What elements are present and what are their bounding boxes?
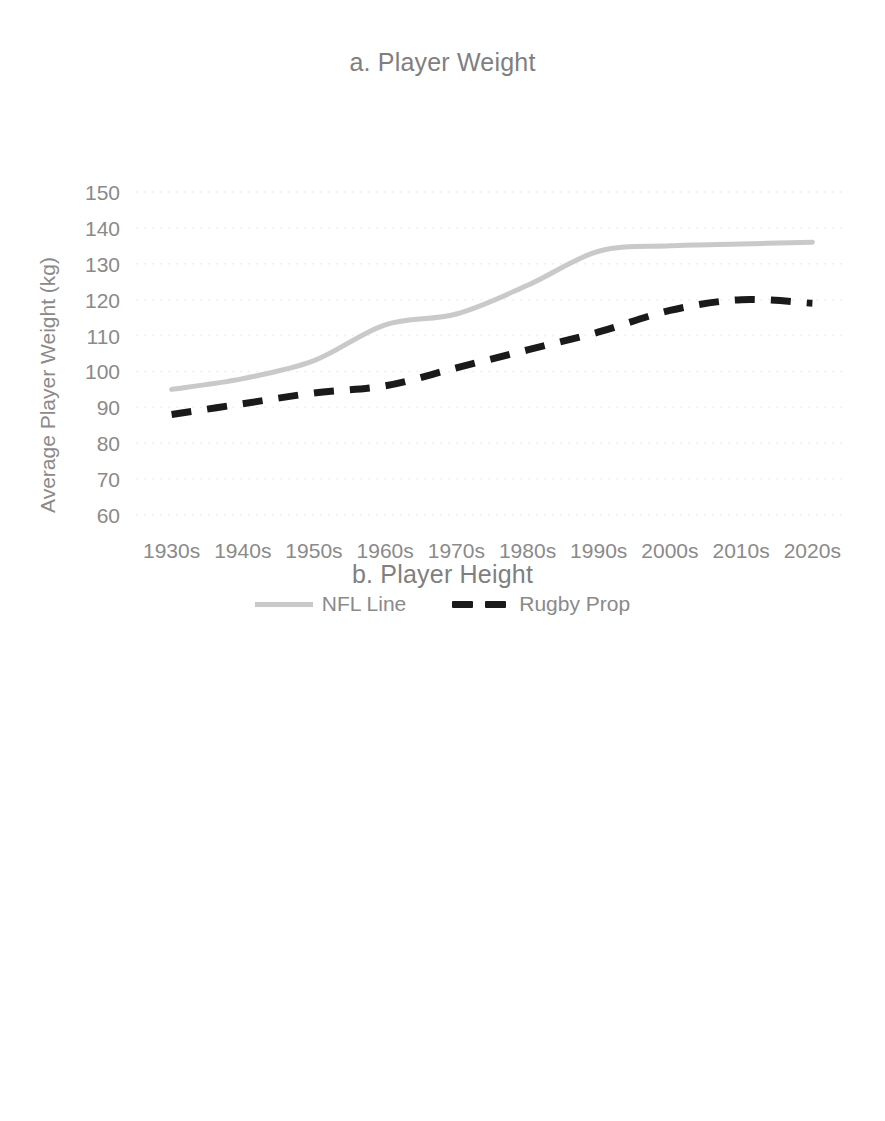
y-tick-label: 150 [85,182,120,203]
y-tick-label: 60 [97,505,120,526]
y-tick-label: 110 [87,325,120,346]
y-tick-label: 70 [97,469,120,490]
y-tick-label: 130 [85,253,120,274]
series-line-nfl-line [172,242,813,389]
y-tick-label: 120 [85,289,120,310]
chart-panel-player-height: b. Player Height Average Player Height (… [0,552,885,1062]
y-tick-label: 90 [97,397,120,418]
series-line-rugby-prop [172,299,813,414]
y-tick-label: 100 [85,361,120,382]
y-tick-label: 140 [85,217,120,238]
chart-panel-player-weight: a. Player Weight Average Player Weight (… [0,0,885,552]
chart-a-plot-area [136,192,848,515]
y-tick-label: 80 [97,433,120,454]
chart-b-title: b. Player Height [0,552,885,589]
chart-a-title: a. Player Weight [0,0,885,77]
chart-a-y-axis-title: Average Player Weight (kg) [36,257,60,513]
chart-a-y-tick-labels: 15014013012011010090807060 [60,192,120,515]
